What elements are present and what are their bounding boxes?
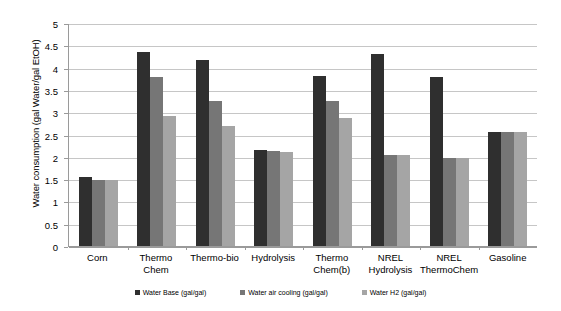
bar-chart: Water consumption (gal Water/gal EtOH) 5… — [0, 0, 561, 311]
legend-swatch-icon — [240, 290, 245, 295]
y-axis-tick-label: 1 — [0, 197, 58, 208]
bar-group — [420, 24, 479, 246]
y-axis-tick-label: 1.5 — [0, 175, 58, 186]
bar — [397, 155, 410, 246]
bar — [150, 77, 163, 246]
y-axis-tick-label: 3 — [0, 108, 58, 119]
bar-group — [128, 24, 187, 246]
bar — [371, 54, 384, 246]
bar — [501, 132, 514, 246]
x-axis-category-label: Thermo Chem(b) — [303, 252, 362, 275]
bar — [339, 118, 352, 246]
x-axis-category-labels: CornThermo ChemThermo-bioHydrolysisTherm… — [68, 252, 537, 275]
y-axis-tick-label: 0.5 — [0, 219, 58, 230]
y-axis-tick-labels: 54.543.532.521.510.50 — [0, 0, 64, 311]
y-axis-tick-label: 4.5 — [0, 41, 58, 52]
legend-label: Water H2 (gal/gal) — [370, 289, 427, 296]
legend-item[interactable]: Water Base (gal/gal) — [135, 289, 207, 296]
x-axis-category-label: Gasoline — [478, 252, 537, 275]
bar — [326, 101, 339, 246]
bar — [254, 150, 267, 246]
bar — [430, 77, 443, 246]
x-axis-tick-mark — [245, 246, 246, 250]
bar-group — [186, 24, 245, 246]
y-axis-tick-label: 3.5 — [0, 85, 58, 96]
bar — [163, 116, 176, 246]
legend-item[interactable]: Water air cooling (gal/gal) — [240, 289, 328, 296]
bar-group — [69, 24, 128, 246]
legend-label: Water Base (gal/gal) — [143, 289, 207, 296]
bar — [384, 155, 397, 246]
bar — [514, 132, 527, 246]
chart-legend: Water Base (gal/gal)Water air cooling (g… — [0, 289, 561, 296]
bar — [105, 180, 118, 246]
x-axis-category-label: Corn — [68, 252, 127, 275]
bar — [313, 76, 326, 246]
bar — [456, 158, 469, 246]
y-axis-tick-label: 4 — [0, 63, 58, 74]
bar-group — [303, 24, 362, 246]
bar — [267, 151, 280, 246]
legend-item[interactable]: Water H2 (gal/gal) — [362, 289, 427, 296]
bar — [196, 60, 209, 246]
y-axis-tick-mark — [64, 247, 68, 248]
bar — [92, 180, 105, 246]
x-axis-tick-mark — [186, 246, 187, 250]
bar — [79, 177, 92, 246]
x-axis-category-label: Thermo Chem — [127, 252, 186, 275]
x-axis-category-label: NREL Hydrolysis — [361, 252, 420, 275]
x-axis-category-label: NREL ThermoChem — [420, 252, 479, 275]
y-axis-tick-label: 2 — [0, 152, 58, 163]
bar-group — [245, 24, 304, 246]
bar — [443, 158, 456, 246]
legend-label: Water air cooling (gal/gal) — [248, 289, 328, 296]
x-axis-tick-mark — [420, 246, 421, 250]
bar — [137, 52, 150, 246]
x-axis-tick-mark — [303, 246, 304, 250]
bar — [488, 132, 501, 246]
bar-group — [479, 24, 538, 246]
legend-swatch-icon — [362, 290, 367, 295]
x-axis-tick-mark — [479, 246, 480, 250]
y-axis-tick-label: 0 — [0, 242, 58, 253]
x-axis-category-label: Thermo-bio — [185, 252, 244, 275]
bar-groups — [69, 24, 537, 246]
y-axis-tick-label: 2.5 — [0, 130, 58, 141]
legend-swatch-icon — [135, 290, 140, 295]
bar — [222, 126, 235, 246]
bar — [280, 152, 293, 246]
bar-group — [362, 24, 421, 246]
x-axis-tick-mark — [128, 246, 129, 250]
x-axis-tick-mark — [362, 246, 363, 250]
bar — [209, 101, 222, 246]
x-axis-category-label: Hydrolysis — [244, 252, 303, 275]
y-axis-tick-label: 5 — [0, 19, 58, 30]
plot-area — [68, 24, 537, 247]
